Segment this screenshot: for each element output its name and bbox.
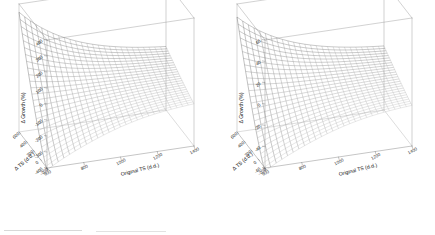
scan-artifact-line	[4, 230, 82, 231]
tick-marks-right	[237, 40, 413, 171]
axes-frame-front-right	[237, 110, 412, 168]
y-tick-label: 0	[252, 159, 258, 165]
surface-plot-right: 6040200-20-40-60Δ Growth (%)600800100012…	[218, 0, 435, 235]
z-tick-label: 400	[35, 38, 44, 47]
x-tick-label: 800	[298, 163, 307, 171]
surface-plot-left: 4003002001000-100-200-300-400Δ Growth (%…	[0, 0, 217, 235]
z-tick-label: -200	[34, 134, 44, 144]
surface-svg-left: 4003002001000-100-200-300-400Δ Growth (%…	[0, 0, 217, 235]
x-axis-title: Original TS (d.d.)	[338, 162, 378, 177]
z-axis-title: Δ Growth (%)	[238, 92, 244, 123]
axes-frame-left	[19, 0, 194, 168]
tick-marks-left	[19, 40, 195, 171]
x-tick-label: 1000	[334, 157, 345, 166]
z-tick-label: -40	[254, 145, 263, 153]
x-axis-title: Original TS (d.d.)	[120, 162, 160, 177]
z-tick-label: 20	[255, 81, 262, 88]
z-tick-label: 200	[35, 70, 44, 79]
figure-canvas: 4003002001000-100-200-300-400Δ Growth (%…	[0, 0, 435, 235]
wireframe-mesh-left	[19, 12, 194, 170]
surface-svg-right: 6040200-20-40-60Δ Growth (%)600800100012…	[218, 0, 435, 235]
x-tick-label: 1400	[189, 146, 200, 155]
x-tick-label: 1000	[116, 157, 127, 166]
y-tick-label: 0	[34, 159, 40, 165]
x-tick-label: 1400	[407, 146, 418, 155]
y-tick-label: 600	[230, 131, 239, 140]
z-tick-label: 0	[39, 102, 44, 108]
scan-artifact-line-2	[96, 231, 166, 232]
wireframe-mesh-right	[237, 17, 412, 171]
x-tick-label: 800	[80, 163, 89, 171]
y-tick-label: 600	[12, 131, 21, 140]
x-tick-label: 1200	[152, 152, 163, 161]
z-axis-title: Δ Growth (%)	[20, 92, 26, 123]
y-tick-label: 400	[237, 140, 246, 149]
y-tick-label: 400	[19, 140, 28, 149]
x-tick-label: 1200	[370, 152, 381, 161]
z-tick-label: 60	[255, 38, 262, 45]
